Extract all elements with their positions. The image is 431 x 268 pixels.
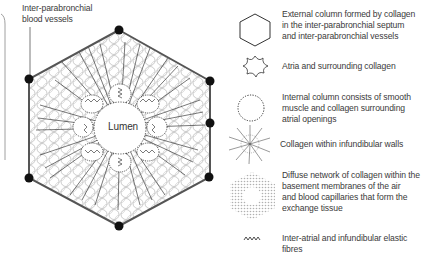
legend-line: Internal column consists of smooth bbox=[282, 92, 411, 103]
legend-line: fibres bbox=[282, 244, 407, 255]
legend-line: External column formed by collagen bbox=[282, 9, 415, 20]
hexagon-icon bbox=[240, 14, 270, 46]
legend-line: muscle and collagen surrounding bbox=[282, 103, 411, 114]
legend-line: and blood capillaries that form the bbox=[282, 192, 420, 203]
legend-line: Diffuse network of collagen within the bbox=[282, 170, 420, 181]
callout-line-1: Inter-parabronchial bbox=[22, 3, 92, 14]
diffuse-network-icon bbox=[230, 172, 275, 220]
atria-star-icon bbox=[243, 56, 268, 77]
legend-line: Atria and surrounding collagen bbox=[282, 61, 396, 72]
spiky-collagen-icon bbox=[229, 125, 270, 164]
legend-item-diffuse-network: Diffuse network of collagen within the b… bbox=[282, 170, 420, 214]
left-bracket-line bbox=[1, 14, 5, 160]
legend-item-atria: Atria and surrounding collagen bbox=[282, 61, 396, 72]
legend-line: basement membranes of the air bbox=[282, 181, 420, 192]
legend-item-internal-column: Internal column consists of smooth muscl… bbox=[282, 92, 411, 125]
legend-line: exchange tissue bbox=[282, 203, 420, 214]
legend-line: in the inter-parabronchial septum bbox=[282, 20, 415, 31]
legend-line: atrial openings bbox=[282, 114, 411, 125]
legend-item-external-column: External column formed by collagen in th… bbox=[282, 9, 415, 42]
legend-line: Collagen within infundibular walls bbox=[280, 139, 403, 150]
legend-item-elastic-fibres: Inter-atrial and infundibular elastic fi… bbox=[282, 233, 407, 255]
legend-line: Inter-atrial and infundibular elastic bbox=[282, 233, 407, 244]
callout-line-2: blood vessels bbox=[22, 14, 92, 25]
callout-label: Inter-parabronchial blood vessels bbox=[22, 3, 92, 25]
legend-item-infundibular-collagen: Collagen within infundibular walls bbox=[280, 139, 403, 150]
lumen-label: Lumen bbox=[108, 121, 138, 132]
dotted-circle-icon bbox=[238, 95, 264, 121]
legend-line: and inter-parabronchial vessels bbox=[282, 31, 415, 42]
zigzag-fibre-icon bbox=[244, 237, 260, 240]
